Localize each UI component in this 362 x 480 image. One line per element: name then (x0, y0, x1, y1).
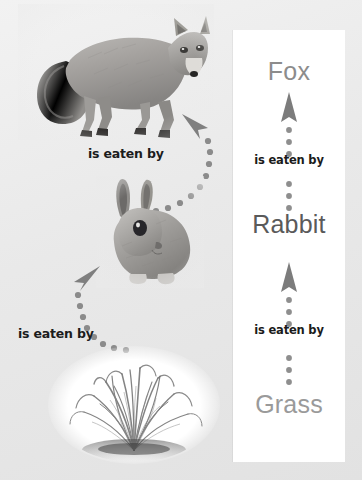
food-chain-panel: Fox is eaten by Rabbit (233, 30, 345, 462)
caption-is-eaten-by-rabbit: is eaten by (18, 326, 94, 341)
chain-node-rabbit: Rabbit (233, 210, 345, 239)
chain-caption-grass-to-rabbit: is eaten by (233, 323, 345, 337)
caption-is-eaten-by-fox: is eaten by (88, 146, 164, 161)
grass-photo (48, 346, 220, 464)
fox-photo (18, 4, 214, 140)
chain-caption-rabbit-to-fox: is eaten by (233, 153, 345, 167)
food-chain-diagram: is eaten by (0, 0, 362, 480)
chain-node-fox: Fox (233, 57, 345, 86)
rabbit-photo (96, 176, 204, 288)
bottom-edge-artifact (70, 468, 190, 480)
chain-arrow-rabbit-to-fox (233, 92, 345, 212)
chain-node-grass: Grass (233, 390, 345, 419)
